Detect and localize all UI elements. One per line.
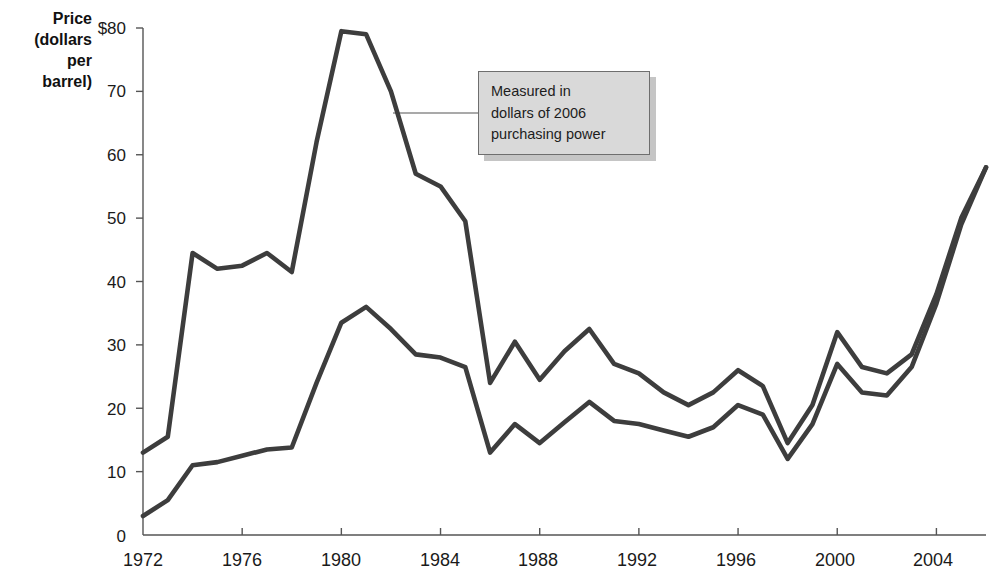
- annotation-line-3: purchasing power: [491, 124, 643, 146]
- x-axis-ticks: [242, 528, 936, 535]
- annotation-callout-text: Measured in dollars of 2006 purchasing p…: [491, 81, 643, 146]
- annotation-callout-box: Measured in dollars of 2006 purchasing p…: [478, 71, 650, 155]
- series-line-nominal-price: [143, 167, 986, 516]
- annotation-line-1: Measured in: [491, 81, 643, 103]
- oil-price-chart: Price (dollars per barrel) $80 70 60 50 …: [0, 0, 993, 578]
- y-axis-ticks: [136, 28, 143, 472]
- annotation-line-2: dollars of 2006: [491, 103, 643, 125]
